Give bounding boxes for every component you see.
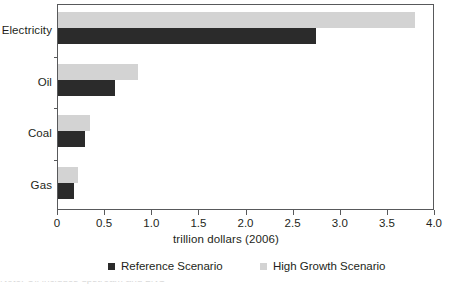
- x-axis-tick-6: [340, 210, 341, 215]
- x-axis-tick-label-4: 2.0: [226, 217, 266, 230]
- legend-swatch-high-growth-icon: [260, 263, 267, 270]
- x-axis-title: trillion dollars (2006): [0, 233, 452, 245]
- legend-label-high-growth: High Growth Scenario: [273, 259, 386, 273]
- legend-label-reference: Reference Scenario: [121, 259, 223, 273]
- cut-off-caption: Note: Oil includes upstream and LNG: [0, 281, 452, 290]
- legend-swatch-reference-icon: [108, 263, 115, 270]
- x-axis-tick-label-0: 0: [37, 217, 77, 230]
- x-axis-tick-label-7: 3.5: [367, 217, 407, 230]
- x-axis-tick-8: [434, 210, 435, 215]
- legend-item-high-growth-scenario: High Growth Scenario: [260, 259, 386, 273]
- x-axis-tick-4: [246, 210, 247, 215]
- bar-oil-reference: [58, 80, 115, 96]
- legend-item-reference-scenario: Reference Scenario: [108, 259, 223, 273]
- x-axis-tick-7: [387, 210, 388, 215]
- x-axis-tick-label-3: 1.5: [178, 217, 218, 230]
- bar-gas-reference: [58, 183, 74, 199]
- x-axis-tick-5: [293, 210, 294, 215]
- x-axis-tick-3: [198, 210, 199, 215]
- x-axis-tick-label-6: 3.0: [320, 217, 360, 230]
- x-axis-tick-label-1: 0.5: [84, 217, 124, 230]
- x-axis-tick-label-2: 1.0: [131, 217, 171, 230]
- bar-group-oil: [58, 57, 433, 109]
- x-axis-tick-label-5: 2.5: [273, 217, 313, 230]
- y-axis-label-oil: Oil: [0, 76, 52, 88]
- x-axis-tick-0: [57, 210, 58, 215]
- bar-group-electricity: [58, 5, 433, 57]
- x-axis-tick-1: [104, 210, 105, 215]
- cut-off-caption-text: Note: Oil includes upstream and LNG: [0, 281, 452, 284]
- y-axis-label-gas: Gas: [0, 179, 52, 191]
- bar-group-coal: [58, 108, 433, 160]
- bar-electricity-reference: [58, 28, 316, 44]
- y-axis-label-electricity: Electricity: [0, 24, 52, 36]
- bar-group-gas: [58, 160, 433, 212]
- y-axis-label-coal: Coal: [0, 127, 52, 139]
- bar-chart: Electricity Oil Coal Gas: [0, 0, 452, 290]
- plot-area: [57, 4, 434, 210]
- x-axis-tick-2: [151, 210, 152, 215]
- bar-coal-high-growth: [58, 115, 90, 131]
- bar-gas-high-growth: [58, 167, 78, 183]
- x-axis-tick-label-8: 4.0: [414, 217, 452, 230]
- y-axis-category-labels: Electricity Oil Coal Gas: [0, 4, 52, 210]
- bar-oil-high-growth: [58, 64, 138, 80]
- bar-coal-reference: [58, 131, 85, 147]
- bar-electricity-high-growth: [58, 12, 415, 28]
- chart-legend: Reference Scenario High Growth Scenario: [0, 259, 452, 275]
